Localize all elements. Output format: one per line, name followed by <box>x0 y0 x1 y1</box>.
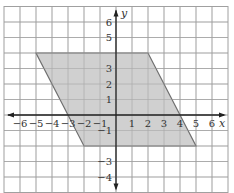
x-tick-label: 5 <box>193 118 199 129</box>
y-tick-label: 5 <box>106 32 112 43</box>
y-tick-label: −1 <box>97 125 112 136</box>
y-tick-label: 1 <box>106 94 112 105</box>
y-tick-label: −3 <box>97 156 112 167</box>
x-tick-label: 3 <box>161 118 167 129</box>
y-tick-label: −4 <box>97 172 112 183</box>
y-tick-label: 6 <box>106 17 112 28</box>
x-tick-label: −3 <box>61 118 76 129</box>
x-tick-label: −5 <box>29 118 44 129</box>
x-tick-label: −6 <box>13 118 28 129</box>
coordinate-plane: −6−5−4−3−2−112345665321−1−3−4xy <box>0 0 234 193</box>
x-tick-label: 2 <box>145 118 151 129</box>
x-axis-label: x <box>219 117 226 130</box>
x-tick-label: −2 <box>77 118 92 129</box>
y-tick-label: 2 <box>106 79 112 90</box>
y-tick-label: 3 <box>106 63 112 74</box>
x-tick-label: 1 <box>129 118 135 129</box>
x-tick-label: 4 <box>177 118 183 129</box>
x-tick-label: 6 <box>209 118 215 129</box>
graph-svg: −6−5−4−3−2−112345665321−1−3−4xy <box>0 0 234 193</box>
y-axis-label: y <box>120 7 128 20</box>
x-tick-label: −4 <box>45 118 60 129</box>
